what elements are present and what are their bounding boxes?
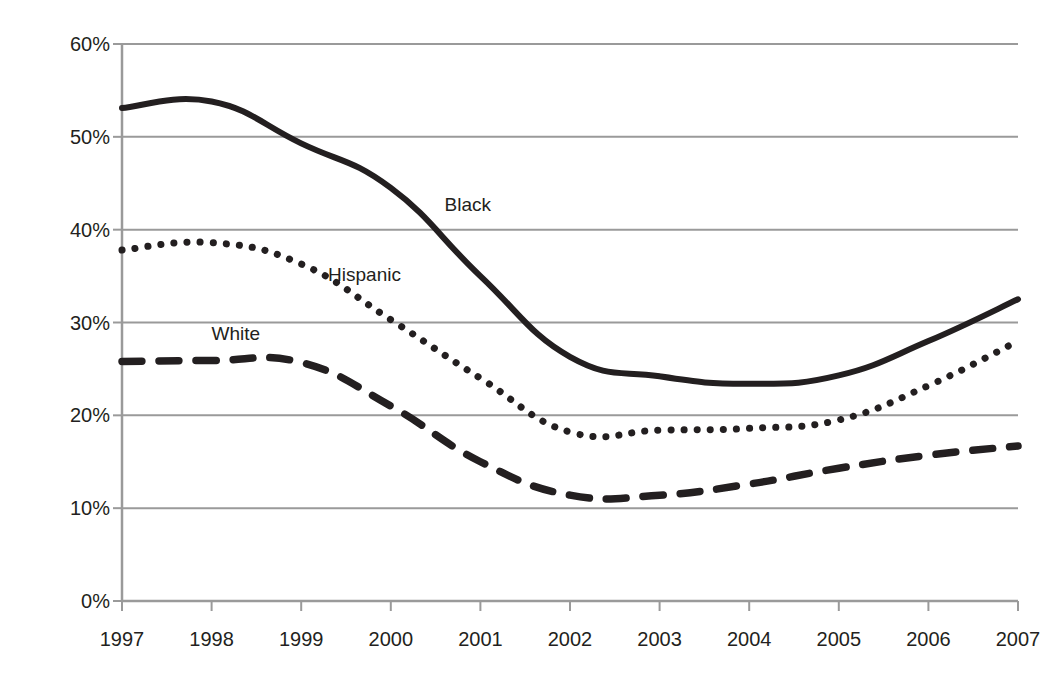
series-line-white — [122, 357, 1018, 499]
series-label-white: White — [212, 323, 261, 345]
data-series-group — [122, 99, 1018, 499]
series-label-black: Black — [445, 194, 491, 216]
gridlines — [122, 44, 1018, 508]
series-label-hispanic: Hispanic — [328, 264, 401, 286]
